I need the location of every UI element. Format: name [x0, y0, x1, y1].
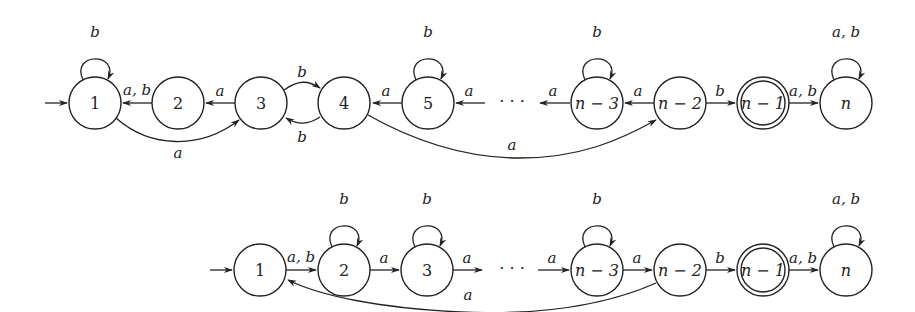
- edge-label: b: [297, 63, 307, 81]
- edge-label: a: [382, 82, 391, 100]
- edge-label: b: [422, 190, 432, 208]
- edge-label: a: [174, 144, 183, 162]
- edge-label: a, b: [287, 248, 315, 266]
- state-label: 4: [339, 94, 349, 113]
- edge-label: a: [216, 82, 225, 100]
- state-n: n: [820, 77, 872, 129]
- state-n-3: n − 3: [571, 244, 623, 296]
- automata-diagram: b a, b a b b a a b a · · · a b: [0, 0, 915, 312]
- edge-label: a: [633, 249, 642, 267]
- state-n-1-accepting: n − 1: [737, 244, 789, 296]
- state-n-3: n − 3: [571, 77, 623, 129]
- state-label: n − 3: [575, 94, 619, 113]
- edge-label: b: [592, 190, 602, 208]
- state-2: 2: [318, 244, 370, 296]
- edge-3-4: [284, 82, 320, 90]
- edge-label: a: [508, 136, 517, 154]
- edge-label: a: [634, 82, 643, 100]
- edge-label: b: [592, 23, 602, 41]
- ellipsis: · · ·: [499, 259, 524, 278]
- edge-label: b: [423, 23, 433, 41]
- state-4: 4: [318, 77, 370, 129]
- state-n-2: n − 2: [654, 244, 706, 296]
- edge-label: a: [464, 286, 473, 304]
- state-1: 1: [234, 244, 286, 296]
- edge-label: b: [90, 23, 100, 41]
- state-label: 3: [256, 94, 266, 113]
- edge-label: a, b: [832, 23, 860, 41]
- state-label: n − 2: [658, 94, 702, 113]
- state-label: 1: [90, 94, 100, 113]
- state-5: 5: [402, 77, 454, 129]
- state-label: 5: [423, 94, 433, 113]
- state-n-1-accepting: n − 1: [737, 77, 789, 129]
- bottom-automaton: a, b b a b a · · · a b a a b a, b: [210, 190, 872, 312]
- edge-label: a, b: [832, 190, 860, 208]
- state-3: 3: [235, 77, 287, 129]
- edge-label: b: [339, 190, 349, 208]
- state-label: n: [841, 261, 851, 280]
- edge-label: b: [297, 128, 307, 146]
- top-automaton: b a, b a b b a a b a · · · a b: [45, 23, 872, 162]
- state-label: n − 1: [741, 261, 785, 280]
- edge-label: a: [380, 249, 389, 267]
- state-3: 3: [401, 244, 453, 296]
- state-label: n: [841, 94, 851, 113]
- state-label: n − 3: [575, 261, 619, 280]
- state-label: n − 2: [658, 261, 702, 280]
- edge-label: a, b: [123, 81, 151, 99]
- edge-label: a: [465, 82, 474, 100]
- edge-label: a: [548, 249, 557, 267]
- edge-label: b: [715, 249, 725, 267]
- state-label: 3: [422, 261, 432, 280]
- ellipsis: · · ·: [499, 92, 524, 111]
- state-1: 1: [69, 77, 121, 129]
- edge-4-3: [286, 117, 320, 123]
- state-label: 1: [255, 261, 265, 280]
- edge-label: a, b: [789, 82, 817, 100]
- state-label: 2: [339, 261, 349, 280]
- state-n: n: [820, 244, 872, 296]
- state-label: 2: [173, 94, 183, 113]
- edge-label: b: [715, 82, 725, 100]
- state-n-2: n − 2: [654, 77, 706, 129]
- edge-label: a: [549, 82, 558, 100]
- edge-label: a, b: [789, 249, 817, 267]
- edge-label: a: [463, 249, 472, 267]
- state-label: n − 1: [741, 94, 785, 113]
- state-2: 2: [152, 77, 204, 129]
